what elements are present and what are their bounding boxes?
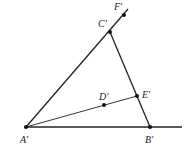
point-d <box>102 103 106 107</box>
label-d: D′ <box>98 91 109 102</box>
label-f: F′ <box>113 1 123 12</box>
point-c <box>108 30 112 34</box>
point-f <box>122 13 126 17</box>
segment-a-e <box>26 96 137 127</box>
segment-c-b <box>110 32 150 127</box>
label-b: B′ <box>145 134 154 145</box>
points-group <box>24 13 152 129</box>
label-a: A′ <box>19 134 29 145</box>
point-b <box>148 125 152 129</box>
point-a <box>24 125 28 129</box>
label-e: E′ <box>141 89 151 100</box>
ray-a-c-f <box>26 9 128 127</box>
point-e <box>135 94 139 98</box>
geometry-diagram: A′B′C′D′E′F′ <box>0 0 195 152</box>
label-c: C′ <box>98 18 108 29</box>
